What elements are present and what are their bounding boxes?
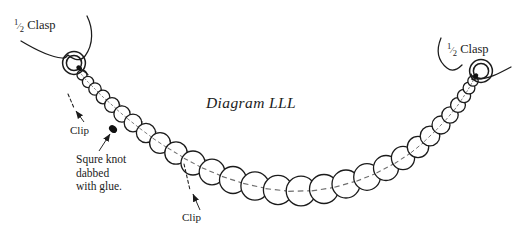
fraction-denominator: 2: [20, 24, 24, 34]
label-clasp-right: 1⁄2 Clasp: [447, 42, 489, 57]
label-clasp-left-text: Clasp: [27, 18, 55, 32]
fraction-numerator: 1: [447, 41, 451, 51]
fraction-one-half-right: 1⁄2: [447, 45, 457, 55]
bead-strand: [77, 70, 478, 206]
leader-square-knot: [99, 134, 110, 151]
fraction-numerator: 1: [14, 17, 18, 27]
label-clip-bottom: Clip: [182, 211, 201, 224]
diagram-canvas: 1⁄2 Clasp 1⁄2 Clasp Clip Clip Squre knot…: [0, 0, 518, 235]
fraction-one-half-left: 1⁄2: [14, 21, 24, 31]
label-clasp-left: 1⁄2 Clasp: [14, 18, 56, 33]
label-clasp-right-text: Clasp: [460, 42, 488, 56]
label-clip-left: Clip: [70, 124, 89, 137]
fraction-denominator: 2: [453, 48, 457, 58]
square-knot-mark: [107, 124, 118, 135]
diagram-title: Diagram LLL: [206, 94, 296, 112]
necklace-illustration: [0, 0, 518, 235]
clip-annotation-left: [68, 94, 84, 122]
label-square-knot: Squre knot dabbed with glue.: [76, 153, 126, 194]
clasp-ring-left: [63, 52, 89, 75]
